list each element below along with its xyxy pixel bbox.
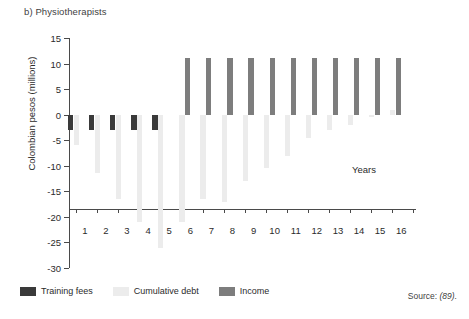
- x-tick: [224, 209, 225, 213]
- x-tick: [413, 209, 414, 213]
- y-tick-label: 0: [56, 109, 61, 120]
- x-tick-label: 7: [209, 225, 214, 236]
- x-tick-label: 2: [103, 225, 108, 236]
- y-tick-label: 5: [56, 84, 61, 95]
- y-tick-label: -30: [47, 263, 61, 274]
- figure-panel: b) Physiotherapists Colombian pesos (mil…: [0, 0, 469, 319]
- y-tick: [64, 268, 69, 269]
- legend-swatch: [20, 287, 36, 296]
- bar: [158, 115, 163, 248]
- bar: [327, 115, 332, 130]
- y-tick: [64, 191, 69, 192]
- bar: [110, 115, 115, 130]
- x-tick-label: 9: [251, 225, 256, 236]
- x-tick-label: 10: [269, 225, 280, 236]
- legend-item: Training fees: [20, 286, 93, 296]
- bar: [89, 115, 94, 130]
- x-tick-label: 4: [145, 225, 150, 236]
- y-tick-label: -10: [47, 160, 61, 171]
- y-tick: [64, 89, 69, 90]
- y-tick: [64, 64, 69, 65]
- x-tick: [97, 209, 98, 213]
- bar: [152, 115, 157, 130]
- x-tick-label: 13: [333, 225, 344, 236]
- y-tick: [64, 242, 69, 243]
- y-tick-label: -25: [47, 237, 61, 248]
- panel-title: b) Physiotherapists: [24, 6, 107, 17]
- y-tick-label: 10: [50, 58, 61, 69]
- x-tick: [371, 209, 372, 213]
- bar: [95, 115, 100, 174]
- bar: [227, 58, 232, 114]
- bar: [179, 115, 184, 222]
- bar: [285, 115, 290, 156]
- legend-label: Cumulative debt: [134, 286, 199, 296]
- x-tick: [203, 209, 204, 213]
- bar: [348, 115, 353, 125]
- bar: [206, 58, 211, 114]
- y-tick-label: -20: [47, 211, 61, 222]
- x-tick: [287, 209, 288, 213]
- bar: [185, 58, 190, 114]
- x-tick-label: 1: [82, 225, 87, 236]
- x-tick: [392, 209, 393, 213]
- y-tick-label: -15: [47, 186, 61, 197]
- x-tick-label: 6: [188, 225, 193, 236]
- plot-area: 151050-5-10-15-20-25-30 1234567891011121…: [69, 38, 416, 268]
- x-tick-label: 12: [312, 225, 323, 236]
- legend-item: Cumulative debt: [113, 286, 199, 296]
- legend-swatch: [113, 287, 129, 296]
- x-tick-label: 14: [354, 225, 365, 236]
- y-tick: [64, 140, 69, 141]
- bar: [137, 115, 142, 222]
- bar: [306, 115, 311, 138]
- x-tick-label: 3: [124, 225, 129, 236]
- bar: [131, 115, 136, 130]
- bar: [390, 110, 395, 115]
- x-tick-label: 11: [291, 225, 301, 236]
- legend-swatch: [219, 287, 235, 296]
- legend-label: Training fees: [41, 286, 93, 296]
- x-tick: [118, 209, 119, 213]
- source-note: Source: (89).: [408, 291, 457, 301]
- bar: [396, 58, 401, 114]
- y-tick: [64, 166, 69, 167]
- y-axis-label: Colombian pesos (millions): [26, 19, 37, 209]
- source-prefix: Source:: [408, 291, 437, 301]
- bar: [291, 58, 296, 114]
- source-reference: (89).: [440, 291, 457, 301]
- bar: [74, 115, 79, 146]
- bar: [222, 115, 227, 202]
- x-tick-label: 15: [375, 225, 386, 236]
- bar: [369, 115, 374, 118]
- x-tick: [329, 209, 330, 213]
- y-axis-line: [69, 38, 70, 268]
- x-tick: [76, 209, 77, 213]
- bar: [264, 115, 269, 169]
- bar: [200, 115, 205, 199]
- y-tick-label: -5: [53, 135, 61, 146]
- y-tick-label: 15: [50, 33, 61, 44]
- y-tick: [64, 217, 69, 218]
- bar: [312, 58, 317, 114]
- bar: [68, 115, 73, 130]
- bar: [354, 58, 359, 114]
- x-tick: [245, 209, 246, 213]
- x-axis-label: Years: [352, 164, 376, 175]
- chart-legend: Training feesCumulative debtIncome: [20, 286, 289, 296]
- x-tick: [308, 209, 309, 213]
- x-tick: [266, 209, 267, 213]
- bar: [333, 58, 338, 114]
- bar: [270, 58, 275, 114]
- y-tick: [64, 38, 69, 39]
- x-tick: [350, 209, 351, 213]
- legend-item: Income: [219, 286, 270, 296]
- x-tick-label: 8: [230, 225, 235, 236]
- bar: [116, 115, 121, 199]
- x-axis-line: [69, 209, 416, 210]
- bar: [375, 58, 380, 114]
- legend-label: Income: [240, 286, 270, 296]
- x-tick-label: 16: [396, 225, 407, 236]
- x-tick-label: 5: [167, 225, 172, 236]
- bar: [243, 115, 248, 181]
